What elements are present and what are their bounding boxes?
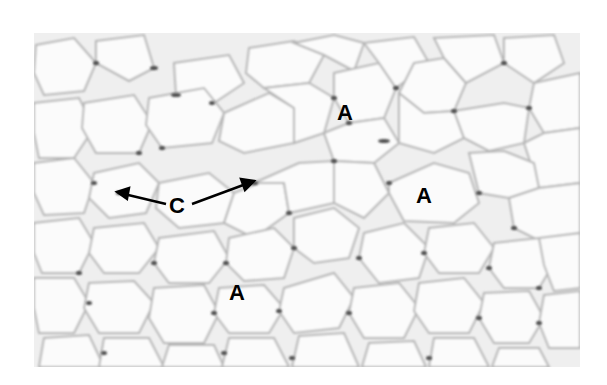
adipocyte-label: A: [337, 102, 353, 124]
adipocyte-label: A: [229, 282, 245, 304]
tissue-cells-drawing: [34, 33, 580, 367]
adipocyte-label: A: [416, 185, 432, 207]
capillary-label: C: [169, 195, 185, 217]
adipose-tissue-micrograph: A A A C: [34, 33, 580, 367]
